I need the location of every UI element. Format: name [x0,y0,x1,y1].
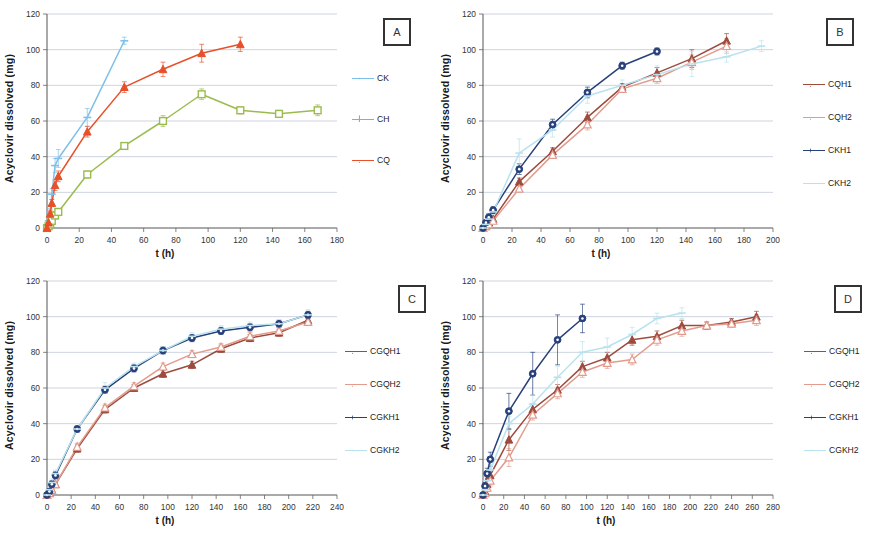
svg-text:100: 100 [462,312,476,322]
legend-label-cqh1: CQH1 [828,79,852,90]
svg-text:160: 160 [298,235,312,245]
svg-text:100: 100 [462,45,476,55]
legend-swatch-cgqh2 [804,379,826,390]
svg-text:120: 120 [600,502,614,512]
svg-text:120: 120 [462,9,476,19]
legend-swatch-cqh2 [803,112,825,123]
svg-text:80: 80 [31,347,41,357]
svg-text:20: 20 [67,502,77,512]
panel-D: Acyclovir dissolved (mg) 020406080100120… [436,267,872,534]
legend-item-cgkh1: CGKH1 [345,411,401,424]
legend-swatch-cqh1 [803,79,825,90]
svg-text:140: 140 [266,235,280,245]
svg-text:140: 140 [621,502,635,512]
svg-text:100: 100 [580,502,594,512]
legend-label-cgkh1: CGKH1 [370,412,400,423]
legend-item-cgkh2: CGKH2 [345,444,401,457]
svg-text:40: 40 [520,502,530,512]
svg-text:40: 40 [31,152,41,162]
legend-label-cgqh2: CGQH2 [370,379,401,390]
legend-label-ck: CK [377,73,389,84]
legend-swatch-ch [352,114,374,125]
svg-text:60: 60 [565,235,575,245]
svg-text:20: 20 [507,235,517,245]
legend-swatch-ck [352,73,374,84]
svg-text:180: 180 [330,235,344,245]
svg-text:60: 60 [31,116,41,126]
svg-text:120: 120 [650,235,664,245]
svg-text:120: 120 [233,235,247,245]
legend-swatch-cq [352,155,374,166]
svg-text:80: 80 [467,80,477,90]
svg-text:100: 100 [621,235,635,245]
svg-text:140: 140 [679,235,693,245]
svg-text:0: 0 [471,223,476,233]
legend-item-cgqh2: CGQH2 [345,378,401,391]
svg-text:240: 240 [725,502,739,512]
legend-item-cq: CQ [352,154,390,167]
panel-D-x-axis-label: t (h) [436,515,776,526]
legend-item-cgkh1: CGKH1 [804,411,860,424]
legend-swatch-cgkh1 [345,412,367,423]
legend-swatch-cgqh1 [345,346,367,357]
svg-text:200: 200 [282,502,296,512]
svg-text:100: 100 [26,312,40,322]
svg-text:100: 100 [26,45,40,55]
legend-label-cgqh2: CGQH2 [829,379,860,390]
svg-text:0: 0 [481,502,486,512]
svg-text:200: 200 [766,235,780,245]
svg-text:40: 40 [536,235,546,245]
legend-item-ch: CH [352,113,390,126]
svg-text:60: 60 [31,383,41,393]
panel-C-badge: C [398,285,426,313]
svg-text:20: 20 [467,187,477,197]
panel-D-badge: D [834,285,862,313]
legend-label-cqh2: CQH2 [828,112,852,123]
svg-text:0: 0 [471,490,476,500]
legend-item-cqh1: CQH1 [803,78,852,91]
panel-A-badge: A [383,18,411,46]
svg-text:100: 100 [201,235,215,245]
svg-text:180: 180 [737,235,751,245]
svg-text:0: 0 [45,502,50,512]
panel-C-legend: CGQH1CGQH2CGKH1CGKH2 [345,345,401,477]
svg-text:20: 20 [31,454,41,464]
svg-text:60: 60 [467,116,477,126]
svg-text:220: 220 [704,502,718,512]
svg-text:60: 60 [139,235,149,245]
legend-item-cgqh1: CGQH1 [804,345,860,358]
panel-D-legend: CGQH1CGQH2CGKH1CGKH2 [804,345,860,477]
svg-text:20: 20 [31,187,41,197]
legend-item-cqh2: CQH2 [803,111,852,124]
svg-text:120: 120 [185,502,199,512]
legend-swatch-cgkh2 [345,445,367,456]
svg-text:20: 20 [75,235,85,245]
svg-text:0: 0 [481,235,486,245]
panel-A-legend: CKCHCQ [352,72,390,195]
svg-text:120: 120 [462,276,476,286]
legend-label-ch: CH [377,114,389,125]
svg-text:40: 40 [31,419,41,429]
svg-text:160: 160 [642,502,656,512]
svg-text:40: 40 [91,502,101,512]
svg-text:260: 260 [745,502,759,512]
svg-text:160: 160 [708,235,722,245]
legend-item-cgqh2: CGQH2 [804,378,860,391]
svg-text:180: 180 [258,502,272,512]
svg-text:80: 80 [594,235,604,245]
panel-C-x-axis-label: t (h) [0,515,330,526]
svg-text:60: 60 [540,502,550,512]
legend-item-cgqh1: CGQH1 [345,345,401,358]
svg-text:40: 40 [467,419,477,429]
svg-text:20: 20 [499,502,509,512]
svg-text:0: 0 [45,235,50,245]
legend-swatch-ckh1 [803,145,825,156]
panel-A: Acyclovir dissolved (mg) 020406080100120… [0,0,436,267]
legend-swatch-cgqh1 [804,346,826,357]
svg-text:0: 0 [35,490,40,500]
svg-text:180: 180 [662,502,676,512]
panel-B-legend: CQH1CQH2CKH1CKH2 [803,78,852,210]
legend-label-ckh2: CKH2 [828,178,851,189]
legend-label-cgkh2: CGKH2 [829,445,859,456]
svg-text:120: 120 [26,276,40,286]
